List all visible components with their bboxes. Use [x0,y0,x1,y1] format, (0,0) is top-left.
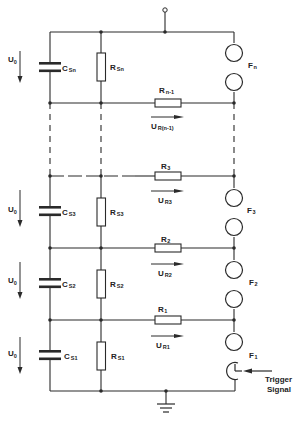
resistor-label-rs3: RS3 [110,208,124,217]
resistor-voltage-label-3: UR3 [158,196,172,205]
resistor-voltage-label-1: UR1 [156,341,170,350]
resistor-voltage-label-n-1: UR(n-1) [151,122,174,131]
source-voltage-label: U0 [8,55,17,65]
capacitor-label-s2: CS2 [62,280,76,289]
source-voltage-label: U0 [8,276,17,286]
gap-label-f3: F3 [247,206,255,215]
coupling-resistor-label-3: R3 [161,162,170,171]
trigger-gap-icon [227,362,242,379]
trigger-label-line2: Signal [267,385,291,394]
coupling-resistor-label-2: R2 [161,235,170,244]
trigger-label-line1: Trigger [265,375,292,384]
capacitor-label-sn: CSn [62,64,76,73]
source-voltage-label: U0 [8,205,17,215]
coupling-resistor-label-1: R1 [158,305,167,314]
capacitor-label-s1: CS1 [64,352,78,361]
voltage-arrowhead-icon [18,76,23,374]
resistor-label-rs2: RS2 [110,280,124,289]
resistor-label-rs1: RS1 [111,352,125,361]
junction-dot [48,30,236,393]
coupling-resistor-icon [155,99,181,324]
gap-label-fn: Fn [248,61,257,70]
ground-icon [157,404,175,412]
resistor-voltage-arrow-icon [151,117,176,336]
trigger-arrow-icon [243,369,272,374]
gap-label-f2: F2 [249,278,257,287]
coupling-resistor-label-n-1: Rn-1 [159,86,174,95]
capacitor-label-s3: CS3 [62,208,76,217]
resistor-label-rsn: RSn [110,63,124,72]
resistor-voltage-arrowhead-icon [174,115,184,338]
gap-label-f1: F1 [249,351,257,360]
output-terminal-icon [163,8,167,12]
resistor-voltage-label-2: UR2 [158,269,172,278]
source-voltage-label: U0 [8,349,17,359]
circuit-schematic: U0 U0 U0 U0 CSn RSn Rn-1 UR(n-1) Fn CS3 … [0,0,299,424]
spark-gap-icon [226,45,243,351]
